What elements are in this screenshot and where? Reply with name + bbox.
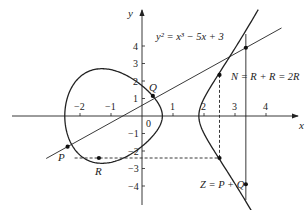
point-Z bbox=[244, 182, 248, 186]
point-label-R: R bbox=[94, 165, 102, 177]
svg-text:3: 3 bbox=[133, 58, 138, 69]
point-label-P: P bbox=[57, 151, 65, 163]
Z-annotation: Z = P + Q bbox=[200, 179, 245, 190]
point-mirror-upper bbox=[217, 73, 221, 77]
point-mirror-lower bbox=[217, 156, 221, 160]
point-R bbox=[97, 156, 101, 160]
svg-text:−3: −3 bbox=[128, 163, 139, 174]
origin-label: 0 bbox=[146, 118, 151, 129]
elliptic-curve-diagram: −2−112344321−1−2−3−4 x y 0 y² = x³ − 5x … bbox=[0, 0, 307, 210]
point-N bbox=[244, 46, 248, 50]
y-axis-label: y bbox=[127, 7, 133, 19]
x-axis-label: x bbox=[298, 119, 304, 131]
svg-text:4: 4 bbox=[133, 41, 138, 52]
point-Q bbox=[151, 94, 155, 98]
svg-text:1: 1 bbox=[170, 101, 175, 112]
point-label-Q: Q bbox=[149, 81, 157, 93]
svg-text:−1: −1 bbox=[128, 128, 139, 139]
svg-text:−2: −2 bbox=[74, 101, 85, 112]
point-P bbox=[66, 145, 70, 149]
svg-text:4: 4 bbox=[263, 101, 268, 112]
N-annotation: N = R + R = 2R bbox=[230, 71, 300, 82]
equation-label: y² = x³ − 5x + 3 bbox=[155, 31, 224, 42]
svg-text:1: 1 bbox=[133, 93, 138, 104]
svg-text:3: 3 bbox=[232, 101, 237, 112]
svg-text:−1: −1 bbox=[105, 101, 116, 112]
svg-text:−4: −4 bbox=[128, 181, 139, 192]
